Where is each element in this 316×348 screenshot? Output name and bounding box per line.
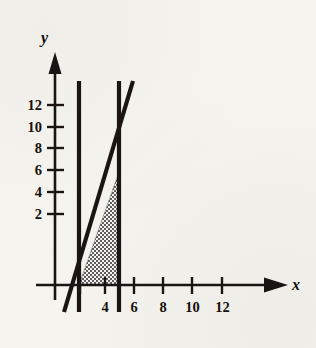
x-tick-label-6: 6 <box>123 300 145 315</box>
coordinate-plot <box>0 0 316 348</box>
y-tick-label-4: 4 <box>14 185 42 200</box>
y-tick-label-8: 8 <box>14 141 42 156</box>
x-tick-label-4: 4 <box>94 300 116 315</box>
y-axis-label: y <box>41 30 48 46</box>
graph-figure: 12 10 8 6 4 2 4 6 8 10 12 y x <box>0 0 316 348</box>
x-axis-label: x <box>292 277 300 293</box>
x-tick-label-8: 8 <box>152 300 174 315</box>
x-tick-label-12: 12 <box>209 300 236 315</box>
y-tick-label-10: 10 <box>14 120 42 135</box>
x-tick-label-10: 10 <box>179 300 206 315</box>
y-tick-label-2: 2 <box>14 207 42 222</box>
y-tick-label-6: 6 <box>14 163 42 178</box>
y-tick-label-12: 12 <box>14 98 42 113</box>
y-axis <box>49 52 62 300</box>
